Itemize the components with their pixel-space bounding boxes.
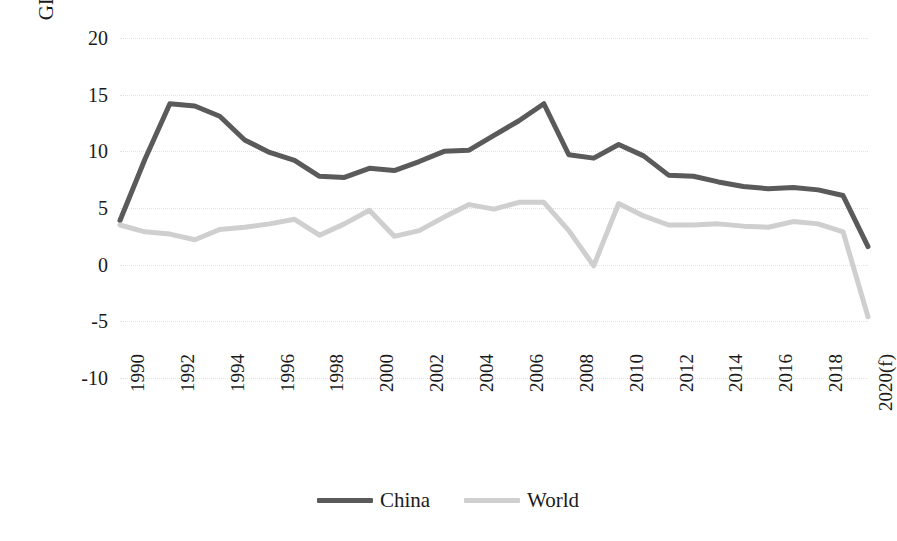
x-tick-label: 2012 — [676, 354, 698, 474]
x-tick-label: 2008 — [576, 354, 598, 474]
legend-label: China — [380, 488, 430, 513]
x-tick-label: 1994 — [227, 354, 249, 474]
x-tick-label: 2004 — [476, 354, 498, 474]
y-tick-label: -5 — [54, 310, 108, 333]
legend-swatch-china — [317, 498, 373, 503]
x-tick-label: 2020(f) — [875, 354, 897, 474]
x-tick-label: 1998 — [326, 354, 348, 474]
x-tick-label: 2010 — [626, 354, 648, 474]
legend-swatch-world — [464, 498, 520, 503]
y-tick-label: 0 — [54, 253, 108, 276]
y-tick-label: 15 — [54, 83, 108, 106]
legend-item-china[interactable]: China — [317, 488, 430, 513]
y-tick-label: 5 — [54, 197, 108, 220]
legend-item-world[interactable]: World — [464, 488, 579, 513]
x-tick-label: 2016 — [775, 354, 797, 474]
y-tick-label: -10 — [54, 367, 108, 390]
x-axis-tick-labels: 1990199219941996199820002002200420062008… — [120, 382, 868, 478]
x-tick-label: 1990 — [127, 354, 149, 474]
series-lines — [120, 38, 868, 378]
x-tick-label: 2002 — [426, 354, 448, 474]
x-tick-label: 1996 — [277, 354, 299, 474]
y-tick-label: 10 — [54, 140, 108, 163]
x-tick-label: 2018 — [825, 354, 847, 474]
y-tick-label: 20 — [54, 27, 108, 50]
x-tick-label: 1992 — [177, 354, 199, 474]
x-tick-label: 2000 — [376, 354, 398, 474]
legend-label: World — [527, 488, 579, 513]
x-tick-label: 2014 — [725, 354, 747, 474]
plot-area — [120, 38, 868, 378]
x-tick-label: 2006 — [526, 354, 548, 474]
chart-legend: ChinaWorld — [0, 488, 896, 513]
series-line-world — [120, 202, 868, 316]
y-axis-tick-labels: 20151050-5-10 — [46, 38, 108, 378]
